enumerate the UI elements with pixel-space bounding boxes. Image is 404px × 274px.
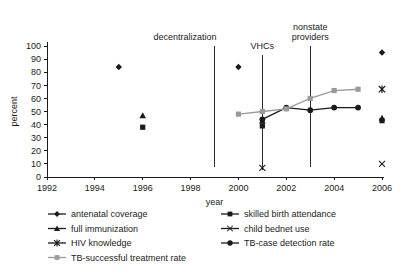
- y-tick-label: 100: [26, 41, 41, 51]
- data-point-marker: [55, 255, 60, 260]
- data-point-marker: [235, 64, 241, 70]
- data-point-marker: [332, 88, 337, 93]
- circle-marker: [355, 105, 361, 111]
- data-point-marker: [355, 87, 360, 92]
- diamond-marker: [54, 211, 60, 217]
- y-tick-label: 70: [31, 81, 41, 91]
- diamond-marker: [235, 64, 241, 70]
- series-line: [238, 89, 358, 114]
- y-tick-label: 30: [31, 133, 41, 143]
- legend-item-hiv-knowledge[interactable]: HIV knowledge: [48, 238, 132, 248]
- square-marker: [284, 106, 289, 111]
- legend-label: child bednet use: [244, 224, 310, 234]
- series-child-bednet-use: [259, 161, 385, 171]
- annotation-label: VHCs: [251, 41, 275, 51]
- legend-label: antenatal coverage: [71, 209, 148, 219]
- data-point-marker: [139, 112, 146, 118]
- data-point-marker: [140, 125, 145, 130]
- y-tick-label: 60: [31, 94, 41, 104]
- data-point-marker: [116, 64, 122, 70]
- y-tick-label: 40: [31, 120, 41, 130]
- data-point-marker: [236, 112, 241, 117]
- triangle-marker: [379, 115, 386, 121]
- data-point-marker: [379, 161, 385, 167]
- chart-figure: 0102030405060708090100199219941996199820…: [0, 0, 404, 274]
- data-point-marker: [260, 109, 265, 114]
- x-tick-label: 1998: [181, 183, 201, 193]
- x-tick-label: 2002: [276, 183, 296, 193]
- data-point-marker: [331, 105, 337, 111]
- data-point-marker: [260, 123, 265, 128]
- legend-label: HIV knowledge: [71, 238, 132, 248]
- legend-item-tb-successful-treatment-rate[interactable]: TB-successful treatment rate: [48, 253, 186, 263]
- x-tick-label: 2004: [324, 183, 344, 193]
- y-tick-label: 80: [31, 67, 41, 77]
- square-marker: [260, 123, 265, 128]
- legend-item-tb-case-detection-rate[interactable]: TB-case detection rate: [221, 238, 335, 248]
- data-point-marker: [228, 212, 233, 217]
- data-point-marker: [379, 86, 385, 93]
- y-tick-label: 90: [31, 54, 41, 64]
- annotation-label: nonstate: [293, 22, 328, 32]
- x-tick-label: 1992: [37, 183, 57, 193]
- data-point-marker: [307, 107, 313, 113]
- square-marker: [236, 112, 241, 117]
- data-point-marker: [259, 116, 265, 122]
- asterisk-marker: [379, 86, 385, 93]
- square-marker: [332, 88, 337, 93]
- square-marker: [355, 87, 360, 92]
- annotation-label: providers: [292, 32, 330, 42]
- series-antenatal-coverage: [116, 49, 386, 70]
- data-point-marker: [227, 240, 232, 245]
- legend-item-child-bednet-use[interactable]: child bednet use: [221, 224, 310, 234]
- series-hiv-knowledge: [379, 86, 385, 93]
- series-tb-successful-treatment-rate: [236, 87, 361, 117]
- square-marker: [260, 109, 265, 114]
- data-point-marker: [379, 115, 386, 121]
- legend-label: TB-case detection rate: [244, 238, 335, 248]
- legend-label: skilled birth attendance: [244, 209, 336, 219]
- circle-marker: [331, 105, 337, 111]
- circle-marker: [259, 116, 265, 122]
- x-tick-label: 2000: [228, 183, 248, 193]
- square-marker: [55, 255, 60, 260]
- chart-plot-area: 0102030405060708090100199219941996199820…: [0, 0, 404, 274]
- legend-item-antenatal-coverage[interactable]: antenatal coverage: [48, 209, 148, 219]
- square-marker: [308, 96, 313, 101]
- diamond-marker: [116, 64, 122, 70]
- annotation-label: decentralization: [153, 32, 216, 42]
- square-marker: [228, 212, 233, 217]
- legend-label: full immunization: [71, 224, 138, 234]
- y-axis-title: percent: [9, 96, 19, 127]
- y-tick-label: 20: [31, 146, 41, 156]
- data-point-marker: [284, 106, 289, 111]
- square-marker: [140, 125, 145, 130]
- x-axis-title: year: [206, 197, 224, 207]
- x-tick-label: 1994: [85, 183, 105, 193]
- x-tick-label: 1996: [133, 183, 153, 193]
- data-point-marker: [54, 211, 60, 217]
- data-point-marker: [355, 105, 361, 111]
- y-tick-label: 0: [36, 172, 41, 182]
- x-marker: [379, 161, 385, 167]
- legend-item-skilled-birth-attendance[interactable]: skilled birth attendance: [221, 209, 336, 219]
- data-point-marker: [379, 49, 385, 55]
- y-tick-label: 10: [31, 159, 41, 169]
- legend-label: TB-successful treatment rate: [71, 253, 186, 263]
- legend-item-full-immunization[interactable]: full immunization: [48, 224, 138, 234]
- circle-marker: [307, 107, 313, 113]
- triangle-marker: [139, 112, 146, 118]
- x-tick-label: 2006: [372, 183, 392, 193]
- y-tick-label: 50: [31, 107, 41, 117]
- diamond-marker: [379, 49, 385, 55]
- data-point-marker: [308, 96, 313, 101]
- circle-marker: [227, 240, 232, 245]
